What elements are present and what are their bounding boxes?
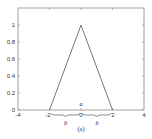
y-tick-label: 0.2: [7, 90, 16, 96]
plot-frame: [18, 8, 144, 110]
x-tick-label: 4: [142, 112, 146, 118]
right-brace-icon: [82, 113, 111, 117]
x-tick-label: 0: [79, 112, 83, 118]
y-tick-label: 0.6: [7, 56, 16, 62]
triangle-chart: 0 0.2 0.4 0.6 0.8 1 -4 -2 0 2 4 a b b (a…: [0, 0, 152, 139]
y-tick-label: 1: [12, 22, 16, 28]
x-tick-label: -2: [45, 112, 51, 118]
x-tick-label: 2: [111, 112, 115, 118]
right-half-width-label: b: [95, 119, 99, 126]
x-tick-label: -4: [15, 112, 21, 118]
left-half-width-label: b: [64, 119, 68, 126]
figure-caption: (a): [77, 125, 84, 133]
y-tick-label: 0.8: [7, 39, 16, 45]
apex-label-a: a: [79, 100, 82, 107]
left-brace-icon: [51, 113, 80, 117]
y-tick-label: 0.4: [7, 73, 16, 79]
